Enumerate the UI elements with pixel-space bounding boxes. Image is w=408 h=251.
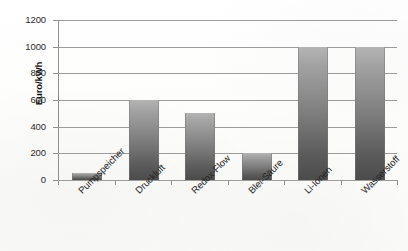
y-tick-label-600: 600 <box>0 95 46 105</box>
y-tick-label-1000: 1000 <box>0 42 46 52</box>
y-tick-label-200: 200 <box>0 148 46 158</box>
x-tick-mark-3 <box>228 181 229 185</box>
bar-chart-figure: Euro/kWh 020040060080010001200 Pumpspeic… <box>0 0 408 251</box>
y-tick-label-800: 800 <box>0 68 46 78</box>
gridline-600 <box>58 100 397 101</box>
gridline-400 <box>58 127 397 128</box>
bar-wasserstoff <box>355 47 385 180</box>
gridline-800 <box>58 73 397 74</box>
x-tick-mark-0 <box>58 181 59 185</box>
x-tick-mark-5 <box>341 181 342 185</box>
x-tick-mark-2 <box>171 181 172 185</box>
x-tick-mark-6 <box>397 181 398 185</box>
bar-li-ionen <box>298 47 328 180</box>
y-tick-label-1200: 1200 <box>0 15 46 25</box>
y-tick-label-0: 0 <box>0 175 46 185</box>
x-tick-mark-1 <box>115 181 116 185</box>
y-axis-title: Euro/kWh <box>33 39 44 129</box>
gridline-1200 <box>58 20 397 21</box>
x-tick-mark-4 <box>284 181 285 185</box>
gridline-1000 <box>58 47 397 48</box>
y-tick-label-400: 400 <box>0 122 46 132</box>
